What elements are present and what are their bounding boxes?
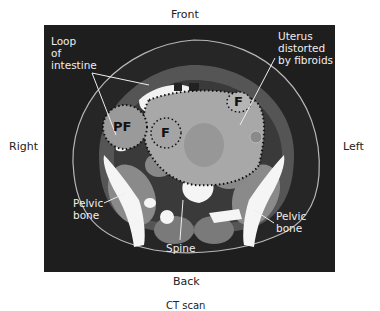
marker-pf: PF xyxy=(113,119,131,134)
orientation-left: Left xyxy=(343,140,364,153)
ct-scan-image: Loop of intestine Uterus distorted by fi… xyxy=(44,25,335,272)
annotation-spine: Spine xyxy=(166,242,195,254)
caption: CT scan xyxy=(166,300,205,311)
marker-f2: F xyxy=(234,94,243,109)
annotation-pelvic-right: Pelvic bone xyxy=(73,197,103,221)
marker-f1: F xyxy=(161,125,170,140)
orientation-front: Front xyxy=(171,8,199,21)
annotation-intestine: Loop of intestine xyxy=(51,35,97,71)
orientation-right: Right xyxy=(9,140,38,153)
orientation-back: Back xyxy=(173,275,200,288)
annotation-uterus: Uterus distorted by fibroids xyxy=(278,30,333,66)
annotation-pelvic-left: Pelvic bone xyxy=(276,210,306,234)
